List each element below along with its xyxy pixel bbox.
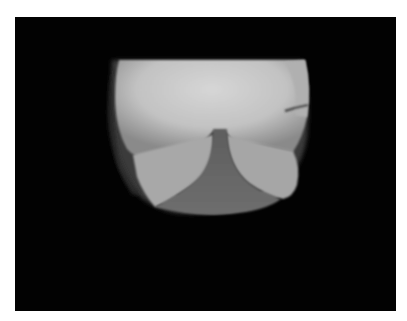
image-frame (0, 0, 407, 321)
xray-film (15, 17, 396, 311)
knee-xray-image (15, 17, 396, 311)
